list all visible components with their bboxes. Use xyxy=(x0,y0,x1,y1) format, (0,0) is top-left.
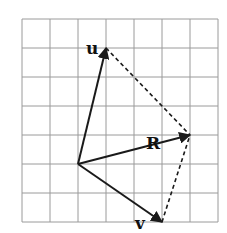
dashed-line-u-to-R xyxy=(106,48,190,135)
vector-addition-diagram: u R v xyxy=(0,0,227,233)
grid xyxy=(22,19,218,222)
label-v: v xyxy=(134,213,146,233)
dashed-line-v-to-R xyxy=(162,135,190,222)
label-u: u xyxy=(86,38,98,58)
label-R: R xyxy=(146,133,161,153)
